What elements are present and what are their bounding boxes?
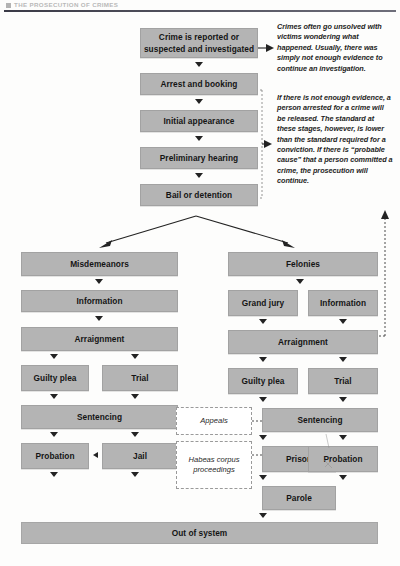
node-felony-guilty-plea[interactable]: Guilty plea [228, 368, 298, 394]
arrow-felony-arraignment-to-trial [339, 357, 347, 362]
node-felonies[interactable]: Felonies [228, 252, 378, 276]
node-misd-guilty-plea[interactable]: Guilty plea [21, 365, 89, 391]
arrow-prelim-to-bail [195, 173, 203, 178]
node-felony-information[interactable]: Information [308, 290, 378, 316]
running-head-square-icon [6, 3, 11, 8]
node-parole[interactable]: Parole [262, 486, 336, 510]
arrow-initial-to-prelim [195, 136, 203, 141]
arrow-arrest-to-initial [195, 99, 203, 104]
node-grand-jury[interactable]: Grand jury [228, 290, 298, 316]
node-misdemeanors[interactable]: Misdemeanors [21, 252, 178, 276]
arrow-misd-arraignment-to-plea [50, 354, 58, 359]
node-felony-trial[interactable]: Trial [308, 368, 378, 394]
arrow-felony-info-to-arraignment [339, 319, 347, 324]
arrow-felony-to-grand-jury [296, 279, 304, 284]
arrow-crime-to-arrest [195, 62, 203, 67]
node-felony-sentencing[interactable]: Sentencing [262, 408, 378, 432]
node-misd-information[interactable]: Information [21, 290, 178, 312]
running-head-text: THE PROSECUTION OF CRIMES [14, 1, 118, 8]
arrow-parole-to-exit [259, 513, 267, 518]
arrow-grand-jury-to-arraignment [259, 319, 267, 324]
arrow-felony-sentencing-to-prison [259, 435, 267, 440]
arrow-misd-info-to-arraignment [95, 316, 103, 321]
header-rule [4, 10, 396, 12]
arrow-probation-to-exit [50, 472, 58, 477]
arrow-felony-probation-to-exit [339, 475, 347, 480]
arrow-misd-trial-to-sentencing [131, 394, 139, 399]
node-misd-trial[interactable]: Trial [102, 365, 178, 391]
node-felony-probation[interactable]: Probation [308, 446, 378, 472]
arrow-misd-to-information [95, 279, 103, 284]
running-head: THE PROSECUTION OF CRIMES [6, 0, 306, 9]
arrow-felony-plea-to-sentencing [259, 397, 267, 402]
arrow-misd-arraignment-to-trial [131, 354, 139, 359]
node-crime-reported[interactable]: Crime is reported or suspected and inves… [140, 28, 258, 58]
node-misd-sentencing[interactable]: Sentencing [21, 405, 178, 429]
node-habeas-corpus[interactable]: Habeas corpus proceedings [176, 441, 252, 489]
node-felony-arraignment[interactable]: Arraignment [228, 330, 378, 354]
arrow-misd-sentencing-to-jail [131, 432, 139, 437]
node-misd-jail[interactable]: Jail [102, 443, 178, 469]
arrow-felony-sentencing-to-probation [339, 435, 347, 440]
arrow-prison-to-parole [259, 475, 267, 480]
node-out-of-system[interactable]: Out of system [21, 522, 378, 544]
node-arrest-booking[interactable]: Arrest and booking [140, 73, 258, 95]
note-unsolved: Crimes often go unsolved with victims wo… [277, 22, 395, 74]
node-misd-arraignment[interactable]: Arraignment [21, 327, 178, 351]
arrow-misd-plea-to-sentencing [50, 394, 58, 399]
arrow-felony-arraignment-to-plea [259, 357, 267, 362]
arrow-felony-trial-to-sentencing [339, 397, 347, 402]
node-preliminary-hearing[interactable]: Preliminary hearing [140, 147, 258, 169]
node-appeals[interactable]: Appeals [176, 407, 252, 435]
node-bail-or-detention[interactable]: Bail or detention [140, 184, 258, 206]
arrow-jail-to-exit [131, 472, 139, 477]
node-misd-probation[interactable]: Probation [21, 443, 89, 469]
note-probable-cause: If there is not enough evidence, a perso… [277, 93, 393, 187]
arrow-jail-to-probation [93, 452, 98, 458]
arrow-misd-sentencing-to-probation [50, 432, 58, 437]
node-initial-appearance[interactable]: Initial appearance [140, 110, 258, 132]
